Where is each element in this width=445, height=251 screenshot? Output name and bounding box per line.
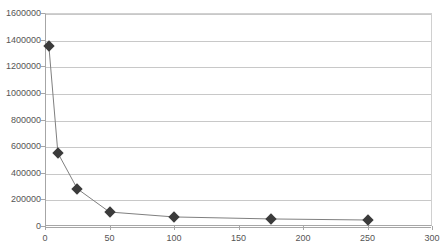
y-tick-label: 1200000 — [6, 62, 41, 71]
y-tick-mark — [41, 199, 45, 200]
x-tick-label: 50 — [104, 234, 114, 243]
y-tick-mark — [41, 66, 45, 67]
y-tick-mark — [41, 93, 45, 94]
chart-container: 0200000400000600000800000100000012000001… — [0, 0, 445, 251]
y-tick-label: 1600000 — [6, 9, 41, 18]
gridline-y — [46, 121, 431, 122]
x-tick-mark — [239, 226, 240, 230]
x-tick-label: 200 — [295, 234, 310, 243]
y-tick-mark — [41, 40, 45, 41]
x-tick-label: 100 — [166, 234, 181, 243]
y-tick-mark — [41, 120, 45, 121]
y-tick-label: 200000 — [11, 195, 41, 204]
x-tick-mark — [368, 226, 369, 230]
y-tick-mark — [41, 146, 45, 147]
gridline-y — [46, 67, 431, 68]
x-tick-mark — [45, 226, 46, 230]
y-tick-label: 800000 — [11, 115, 41, 124]
gridline-y — [46, 147, 431, 148]
x-tick-label: 0 — [42, 234, 47, 243]
x-axis: 050100150200250300 — [0, 234, 445, 248]
plot-area — [45, 13, 432, 226]
y-tick-label: 400000 — [11, 168, 41, 177]
x-tick-label: 300 — [424, 234, 439, 243]
x-tick-mark — [303, 226, 304, 230]
x-tick-mark — [174, 226, 175, 230]
x-tick-label: 250 — [360, 234, 375, 243]
x-tick-mark — [110, 226, 111, 230]
gridline-y — [46, 200, 431, 201]
gridline-y — [46, 174, 431, 175]
y-tick-label: 1400000 — [6, 35, 41, 44]
x-axis-ticks — [0, 226, 445, 232]
y-tick-label: 1000000 — [6, 88, 41, 97]
gridline-y — [46, 41, 431, 42]
y-tick-label: 600000 — [11, 142, 41, 151]
y-tick-mark — [41, 13, 45, 14]
x-tick-label: 150 — [231, 234, 246, 243]
y-axis: 0200000400000600000800000100000012000001… — [0, 0, 41, 251]
x-tick-mark — [432, 226, 433, 230]
gridline-y — [46, 94, 431, 95]
gridline-y — [46, 14, 431, 15]
y-tick-mark — [41, 173, 45, 174]
